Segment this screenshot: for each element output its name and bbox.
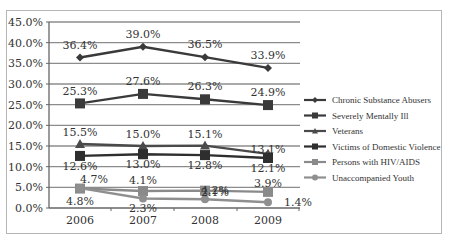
series-chronic-substance-abusers: [76, 43, 272, 72]
data-label: 4.1%: [129, 174, 157, 187]
legend-label: Severely Mentally Ill: [332, 111, 409, 121]
data-label: 15.0%: [126, 128, 161, 141]
y-tick-label: 30.0%: [8, 78, 43, 91]
data-label: 26.3%: [188, 80, 223, 93]
data-label: 25.3%: [63, 85, 98, 98]
x-tick-label: 2009: [254, 214, 282, 227]
data-label: 36.5%: [188, 38, 223, 51]
data-label: 13.0%: [126, 158, 161, 171]
y-tick-label: 0.0%: [15, 202, 43, 215]
data-label: 2.3%: [129, 202, 157, 215]
legend-item: Victims of Domestic Violence: [304, 142, 440, 152]
data-label: 15.5%: [63, 126, 98, 139]
data-label: 12.8%: [188, 159, 223, 172]
x-tick-label: 2008: [191, 214, 219, 227]
data-label: 24.9%: [251, 86, 286, 99]
legend-item: Unaccompanied Youth: [304, 173, 414, 183]
legend-label: Veterans: [332, 126, 363, 136]
data-label: 3.9%: [254, 177, 282, 190]
legend-item: Persons with HIV/AIDS: [304, 157, 420, 167]
y-tick-label: 15.0%: [8, 140, 43, 153]
data-label: 2.1%: [201, 186, 229, 199]
legend-label: Chronic Substance Abusers: [332, 95, 431, 105]
data-label: 4.7%: [80, 173, 108, 186]
legend: Chronic Substance AbusersSeverely Mental…: [304, 95, 440, 183]
y-tick-label: 35.0%: [8, 57, 43, 70]
data-label: 12.1%: [251, 162, 286, 175]
legend-item: Veterans: [304, 126, 363, 136]
data-label: 13.1%: [251, 143, 286, 156]
data-label: 4.8%: [66, 195, 94, 208]
x-tick-label: 2006: [66, 214, 94, 227]
data-label: 12.6%: [63, 160, 98, 173]
data-label: 15.1%: [188, 128, 223, 141]
data-label: 27.6%: [126, 75, 161, 88]
legend-item: Severely Mentally Ill: [304, 111, 409, 121]
data-label: 36.4%: [63, 39, 98, 52]
y-tick-label: 10.0%: [8, 161, 43, 174]
legend-label: Persons with HIV/AIDS: [332, 157, 420, 167]
y-tick-label: 20.0%: [8, 119, 43, 132]
series-severely-mentally-ill: [75, 89, 273, 110]
y-axis-ticks: 0.0%5.0%10.0%15.0%20.0%25.0%30.0%35.0%40…: [8, 16, 49, 215]
legend-label: Victims of Domestic Violence: [332, 142, 440, 152]
y-tick-label: 45.0%: [8, 16, 43, 29]
x-tick-label: 2007: [129, 214, 157, 227]
line-chart: 0.0%5.0%10.0%15.0%20.0%25.0%30.0%35.0%40…: [0, 0, 449, 243]
y-tick-label: 40.0%: [8, 37, 43, 50]
legend-item: Chronic Substance Abusers: [304, 95, 431, 105]
y-tick-label: 25.0%: [8, 99, 43, 112]
legend-label: Unaccompanied Youth: [332, 173, 414, 183]
data-label: 1.4%: [284, 196, 312, 209]
data-label: 33.9%: [251, 49, 286, 62]
data-label: 39.0%: [126, 28, 161, 41]
y-tick-label: 5.0%: [15, 181, 43, 194]
x-axis-ticks: 2006200720082009: [66, 208, 299, 227]
